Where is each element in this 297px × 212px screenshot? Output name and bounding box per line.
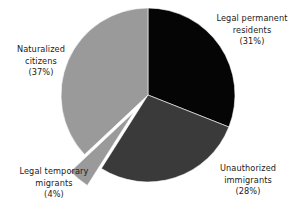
slice-label-legal-temporary-migrants: Legal temporary migrants (4%) (2, 166, 106, 201)
slice-label-naturalized-citizens: Naturalized citizens (37%) (2, 44, 80, 79)
slice-label-value: (37%) (2, 67, 80, 79)
pie-chart-figure: Legal permanent residents (31%) Naturali… (0, 0, 297, 212)
slice-label-line-1: Naturalized (2, 44, 80, 56)
slice-label-line-1: Legal temporary (2, 166, 106, 178)
slice-label-unauthorized-immigrants: Unauthorized immigrants (28%) (204, 163, 292, 198)
slice-label-value: (31%) (207, 36, 297, 48)
slice-label-line-2: immigrants (204, 175, 292, 187)
slice-label-line-2: migrants (2, 178, 106, 190)
slice-label-line-1: Legal permanent (207, 13, 297, 25)
slice-label-legal-permanent-residents: Legal permanent residents (31%) (207, 13, 297, 48)
slice-label-line-1: Unauthorized (204, 163, 292, 175)
slice-label-line-2: citizens (2, 56, 80, 68)
slice-label-value: (4%) (2, 189, 106, 201)
slice-label-value: (28%) (204, 186, 292, 198)
slice-label-line-2: residents (207, 25, 297, 37)
